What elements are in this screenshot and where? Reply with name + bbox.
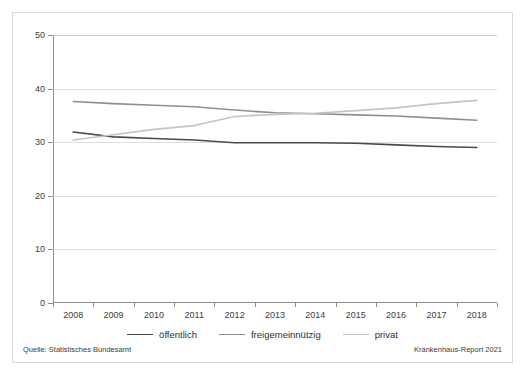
legend-swatch-icon [219, 334, 245, 335]
y-tick-label-30: 30 [35, 137, 45, 147]
x-tick-label-2008: 2008 [63, 310, 83, 320]
legend-label: freigemeinnützig [251, 329, 321, 340]
x-tick [174, 303, 175, 307]
chart-footer: Quelle: Statistisches Bundesamt Krankenh… [23, 345, 502, 354]
series-line-öffentlich [73, 132, 477, 148]
x-tick-label-2017: 2017 [426, 310, 446, 320]
x-tick [376, 303, 377, 307]
legend-item-öffentlich[interactable]: öffentlich [127, 329, 197, 340]
legend-swatch-icon [343, 334, 369, 335]
x-tick-label-2018: 2018 [467, 310, 487, 320]
x-tick [497, 303, 498, 307]
source-note: Quelle: Statistisches Bundesamt [23, 345, 131, 354]
legend-label: privat [375, 329, 398, 340]
x-tick-label-2009: 2009 [104, 310, 124, 320]
y-tick-label-10: 10 [35, 244, 45, 254]
legend-swatch-icon [127, 334, 153, 335]
y-tick-label-50: 50 [35, 30, 45, 40]
x-tick [457, 303, 458, 307]
y-tick-label-0: 0 [40, 298, 45, 308]
legend-item-freigemeinnützig[interactable]: freigemeinnützig [219, 329, 321, 340]
legend-label: öffentlich [159, 329, 197, 340]
x-tick [93, 303, 94, 307]
chart-figure: 01020304050 2008200920102011201220132014… [12, 12, 513, 363]
legend-item-privat[interactable]: privat [343, 329, 398, 340]
x-tick [336, 303, 337, 307]
x-tick [53, 303, 54, 307]
chart-legend: öffentlichfreigemeinnützigprivat [13, 329, 512, 340]
x-tick-label-2010: 2010 [144, 310, 164, 320]
x-tick-label-2012: 2012 [225, 310, 245, 320]
x-tick [255, 303, 256, 307]
y-tick-label-40: 40 [35, 84, 45, 94]
credit-note: Krankenhaus-Report 2021 [414, 345, 502, 354]
x-tick [416, 303, 417, 307]
series-line-privat [73, 100, 477, 140]
y-tick-label-20: 20 [35, 191, 45, 201]
series-line-freigemeinnützig [73, 101, 477, 120]
x-tick-label-2013: 2013 [265, 310, 285, 320]
x-tick-label-2015: 2015 [346, 310, 366, 320]
plot-area: 01020304050 2008200920102011201220132014… [53, 35, 497, 303]
series-lines [53, 35, 497, 303]
x-tick [134, 303, 135, 307]
x-tick-label-2014: 2014 [305, 310, 325, 320]
x-tick [295, 303, 296, 307]
x-tick [214, 303, 215, 307]
x-tick-label-2016: 2016 [386, 310, 406, 320]
x-tick-label-2011: 2011 [185, 310, 204, 320]
